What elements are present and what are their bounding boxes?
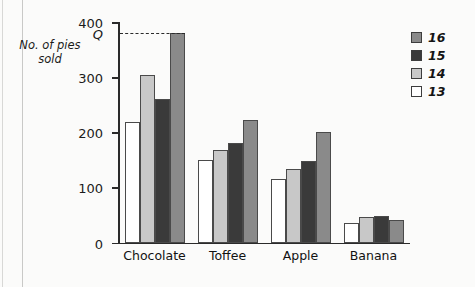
- bar-toffee-14: [213, 150, 228, 242]
- bar-banana-15: [374, 216, 389, 242]
- q-axis-marker: Q: [112, 33, 118, 35]
- q-axis-label: Q: [93, 27, 103, 42]
- y-axis-line: [118, 22, 120, 244]
- x-axis-category-label: Banana: [350, 248, 397, 263]
- bar-chocolate-15: [155, 99, 170, 242]
- legend-item-16: 16: [411, 30, 445, 45]
- x-axis-category-label: Toffee: [209, 248, 246, 263]
- bar-banana-16: [389, 220, 404, 242]
- q-reference-line: [120, 33, 186, 34]
- y-axis-tick-label: 300: [78, 71, 103, 86]
- legend-label: 15: [428, 48, 445, 63]
- bar-banana-13: [344, 223, 359, 243]
- bar-chocolate-16: [170, 33, 185, 242]
- legend-swatch-14: [411, 68, 422, 79]
- bar-toffee-15: [228, 143, 243, 242]
- bar-toffee-13: [198, 160, 213, 243]
- x-axis-category-label: Apple: [283, 248, 319, 263]
- bar-banana-14: [359, 217, 374, 242]
- y-axis-tick-label: 100: [78, 181, 103, 196]
- bar-chart-figure: No. of pies sold 0100200300400ChocolateT…: [0, 0, 475, 287]
- y-axis-tick: 0: [112, 243, 118, 245]
- bar-group-chocolate: [125, 33, 185, 242]
- y-axis-tick: 200: [112, 132, 118, 134]
- legend-label: 16: [428, 30, 445, 45]
- bar-group-banana: [344, 216, 404, 242]
- legend-item-15: 15: [411, 48, 445, 63]
- legend: 16151413: [411, 30, 445, 99]
- legend-item-13: 13: [411, 84, 445, 99]
- y-axis-tick: 400: [112, 22, 118, 24]
- bar-chocolate-14: [140, 75, 155, 242]
- bar-apple-13: [271, 179, 286, 242]
- bar-apple-16: [316, 132, 331, 242]
- x-axis-category-label: Chocolate: [123, 248, 186, 263]
- bar-toffee-16: [243, 120, 258, 242]
- bar-group-apple: [271, 132, 331, 242]
- x-axis-line: [118, 243, 410, 245]
- bar-apple-14: [286, 169, 301, 242]
- legend-label: 14: [428, 66, 445, 81]
- y-axis-title: No. of pies sold: [8, 38, 92, 66]
- legend-swatch-16: [411, 32, 422, 43]
- bar-apple-15: [301, 161, 316, 242]
- bar-group-toffee: [198, 120, 258, 242]
- y-axis-tick: 300: [112, 77, 118, 79]
- plot-area: 0100200300400ChocolateToffeeAppleBananaQ: [118, 22, 410, 244]
- bar-chocolate-13: [125, 122, 140, 242]
- legend-item-14: 14: [411, 66, 445, 81]
- y-axis-tick-label: 0: [95, 236, 103, 251]
- legend-swatch-13: [411, 86, 422, 97]
- y-axis-tick-label: 200: [78, 126, 103, 141]
- page-edge-line-outer: [2, 0, 3, 287]
- legend-label: 13: [428, 84, 445, 99]
- legend-swatch-15: [411, 50, 422, 61]
- y-axis-tick: 100: [112, 187, 118, 189]
